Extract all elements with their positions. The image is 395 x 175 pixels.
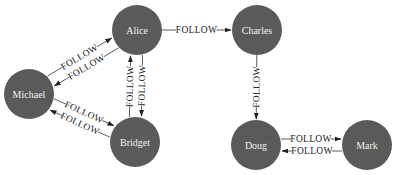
- edge-label: FOLLOW: [137, 65, 148, 107]
- node-label: Alice: [126, 25, 148, 36]
- edge-charles-doug[interactable]: FOLLOW: [251, 55, 261, 119]
- edge-alice-charles[interactable]: FOLLOW: [162, 25, 231, 35]
- edge-alice-bridget[interactable]: FOLLOW: [137, 55, 148, 116]
- graph-canvas: FOLLOWFOLLOWFOLLOWFOLLOWFOLLOWFOLLOWFOLL…: [0, 0, 395, 175]
- node-label: Charles: [242, 25, 273, 36]
- edge-bridget-alice[interactable]: FOLLOW: [125, 56, 136, 117]
- node-charles[interactable]: Charles: [232, 5, 282, 55]
- node-label: Michael: [13, 89, 46, 100]
- edge-label: FOLLOW: [251, 66, 261, 107]
- node-michael[interactable]: Michael: [4, 69, 54, 119]
- edge-label: FOLLOW: [176, 25, 217, 35]
- node-doug[interactable]: Doug: [231, 120, 281, 170]
- edge-mark-doug[interactable]: FOLLOW: [282, 146, 342, 156]
- edge-doug-mark[interactable]: FOLLOW: [281, 134, 341, 144]
- node-label: Doug: [245, 140, 267, 151]
- edges-layer: FOLLOWFOLLOWFOLLOWFOLLOWFOLLOWFOLLOWFOLL…: [47, 25, 342, 156]
- edge-label: FOLLOW: [125, 66, 136, 108]
- node-alice[interactable]: Alice: [112, 5, 162, 55]
- node-label: Bridget: [120, 137, 150, 148]
- node-label: Mark: [356, 140, 378, 151]
- edge-label: FOLLOW: [291, 146, 332, 156]
- edge-label: FOLLOW: [290, 134, 331, 144]
- node-mark[interactable]: Mark: [342, 120, 392, 170]
- node-bridget[interactable]: Bridget: [110, 117, 160, 167]
